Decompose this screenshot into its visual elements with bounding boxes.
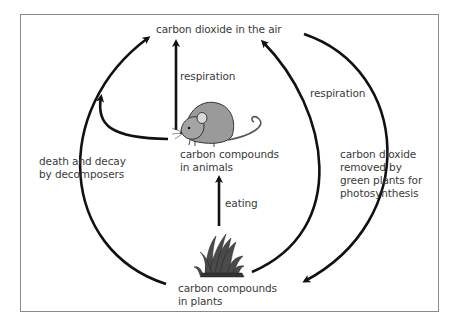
animal-respiration-label: respiration [180,70,235,83]
node-animals-line2: in animals [180,161,279,174]
eating-label: eating [225,197,258,210]
node-air-label: carbon dioxide in the air [156,23,282,36]
photosynthesis-line2: removed by [340,161,422,174]
photosynthesis-line3: green plants for [340,174,422,187]
node-plants-line2: in plants [178,295,277,308]
decay-line2: by decomposers [39,168,126,181]
mouse-icon [172,102,261,147]
photosynthesis-line1: carbon dioxide [340,148,422,161]
node-plants-line1: carbon compounds [178,282,277,295]
node-animals-label: carbon compounds in animals [180,148,279,174]
grass-icon [194,234,244,277]
decay-label: death and decay by decomposers [39,155,126,181]
node-animals-line1: carbon compounds [180,148,279,161]
decay-line1: death and decay [39,155,126,168]
photosynthesis-line4: photosynthesis [340,187,422,200]
photosynthesis-label: carbon dioxide removed by green plants f… [340,148,422,200]
node-plants-label: carbon compounds in plants [178,282,277,308]
plant-respiration-label: respiration [310,87,365,100]
animal-decay-arrow [100,97,168,139]
